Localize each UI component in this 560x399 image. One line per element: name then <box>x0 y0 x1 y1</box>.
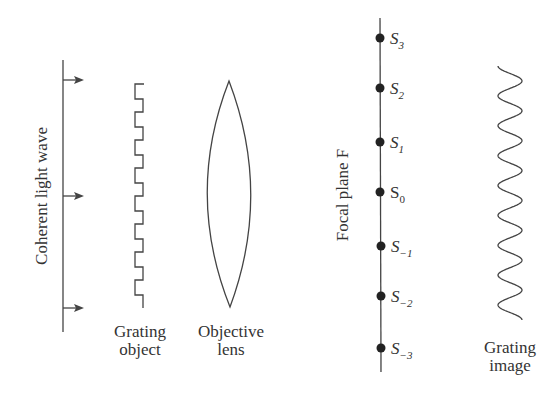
objective-lens-label-1: Objective <box>198 322 264 341</box>
grating-object-label-2: object <box>119 340 161 359</box>
spot-s2 <box>376 84 385 93</box>
grating-image-label-1: Grating <box>484 338 536 357</box>
objective-lens <box>207 81 251 307</box>
spot-label-s0: S0 <box>390 183 405 205</box>
spot-s0 <box>376 188 385 197</box>
spot-label-s3: S3 <box>390 29 405 51</box>
focal-plane-label: Focal plane F <box>333 149 352 242</box>
spot-label-s-3: S−3 <box>391 339 413 361</box>
spot-s-1 <box>377 242 386 251</box>
spot-label-s-2: S−2 <box>391 287 413 309</box>
grating-object-square-wave <box>135 84 144 308</box>
spot-label-s-1: S−1 <box>391 237 412 259</box>
grating-object-label-1: Grating <box>114 322 166 341</box>
spot-s3 <box>376 34 385 43</box>
spot-s1 <box>376 138 385 147</box>
grating-image-label-2: image <box>489 356 531 375</box>
objective-lens-label-2: lens <box>217 340 244 359</box>
light-wave-label: Coherent light wave <box>32 127 51 265</box>
spot-s-3 <box>377 344 386 353</box>
spot-label-s2: S2 <box>390 79 405 101</box>
spot-s-2 <box>377 292 386 301</box>
spot-label-s1: S1 <box>390 133 404 155</box>
grating-image-sine-wave <box>498 66 522 320</box>
coherent-light-wave <box>63 60 84 332</box>
spot-labels: S3 S2 S1 S0 S−1 S−2 S−3 <box>390 29 413 361</box>
diagram-canvas: Coherent light wave Grating object Objec… <box>0 0 560 399</box>
